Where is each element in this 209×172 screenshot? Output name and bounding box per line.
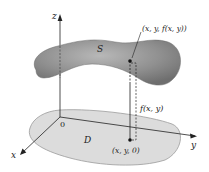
z-axis-label: z — [51, 11, 57, 21]
surface-point — [128, 59, 132, 63]
origin-label: 0 — [60, 120, 65, 129]
base-point-label: (x, y, 0) — [112, 146, 140, 155]
surface-over-region-diagram: z x y 0 S D (x, y, f(x, y)) f(x, y) (x, … — [0, 0, 209, 172]
z-axis-arrow-icon — [58, 14, 63, 21]
surface-point-label: (x, y, f(x, y)) — [142, 24, 187, 33]
surface-s — [34, 40, 180, 85]
region-d — [29, 110, 180, 165]
height-label: f(x, y) — [139, 104, 163, 113]
surface-label: S — [97, 44, 103, 54]
x-axis-label: x — [11, 150, 16, 160]
y-axis-arrow-icon — [190, 134, 197, 139]
base-point — [128, 138, 132, 142]
region-label: D — [83, 135, 91, 145]
y-axis-label: y — [190, 140, 197, 150]
